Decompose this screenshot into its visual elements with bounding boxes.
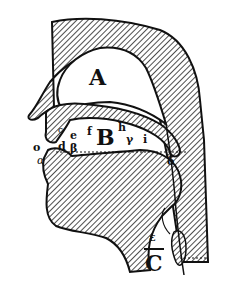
label-o: o bbox=[33, 142, 40, 153]
label-c: c bbox=[58, 126, 63, 135]
label-h: h bbox=[118, 122, 126, 133]
label-d: d bbox=[58, 141, 66, 152]
label-region-b: B bbox=[96, 126, 115, 148]
label-region-c: C bbox=[145, 252, 163, 274]
label-beta: β bbox=[70, 143, 77, 154]
fraction-bar bbox=[144, 248, 164, 250]
label-delta: δ bbox=[167, 156, 174, 167]
label-alpha: α bbox=[37, 155, 44, 166]
label-region-a: A bbox=[89, 66, 106, 88]
label-epsilon: ε bbox=[149, 232, 156, 243]
label-i: i bbox=[143, 134, 147, 145]
label-gamma: γ bbox=[126, 134, 133, 145]
label-f: f bbox=[87, 126, 92, 137]
label-e: e bbox=[70, 130, 77, 141]
